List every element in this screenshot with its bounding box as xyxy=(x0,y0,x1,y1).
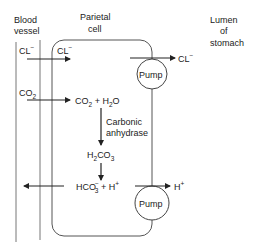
lumen-label-2: of xyxy=(220,26,228,36)
cl-cell: CL− xyxy=(57,44,73,56)
blood-label-2: vessel xyxy=(14,26,40,36)
cl-lumen: CL− xyxy=(178,52,194,64)
h-lumen: H+ xyxy=(174,180,185,192)
enzyme-label-2: anhydrase xyxy=(106,128,148,138)
lumen-label-3: stomach xyxy=(210,38,244,48)
hco3-h: HCO−3 + H+ xyxy=(76,180,119,194)
co2-h2o: CO2 + H2O xyxy=(75,96,120,108)
co2-blood: CO2 xyxy=(19,88,37,100)
blood-label-1: Blood xyxy=(14,15,37,25)
lumen-label-1: Lumen xyxy=(210,15,238,25)
lower-pump-label: Pump xyxy=(139,199,163,209)
diagram-canvas: Blood vessel Parietal cell Lumen of stom… xyxy=(0,0,265,249)
cl-blood: CL− xyxy=(19,44,35,56)
cell-label-1: Parietal xyxy=(80,12,111,22)
enzyme-label-1: Carbonic xyxy=(106,117,143,127)
upper-pump-label: Pump xyxy=(139,70,163,80)
diagram-svg: Blood vessel Parietal cell Lumen of stom… xyxy=(0,0,265,249)
h2co3: H2CO3 xyxy=(87,150,115,162)
cell-label-2: cell xyxy=(88,24,102,34)
